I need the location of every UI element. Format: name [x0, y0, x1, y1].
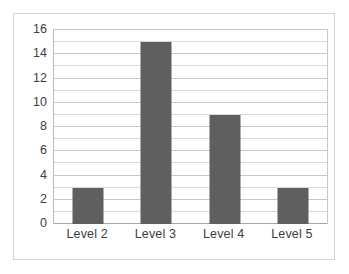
bar[interactable] — [277, 188, 308, 224]
plot-area — [53, 29, 328, 224]
bar-series — [54, 30, 327, 224]
y-axis-tick-label: 4 — [14, 168, 47, 181]
y-axis-tick-label: 10 — [14, 96, 47, 109]
bar-slot — [259, 30, 327, 224]
x-axis: Level 2Level 3Level 4Level 5 — [53, 228, 326, 254]
bar-slot — [191, 30, 259, 224]
y-axis-tick-label: 8 — [14, 120, 47, 133]
y-axis-tick-label: 2 — [14, 193, 47, 206]
chart-frame: 0246810121416 Level 2Level 3Level 4Level… — [13, 13, 335, 260]
y-axis-tick-label: 16 — [14, 23, 47, 36]
y-axis-tick-label: 0 — [14, 217, 47, 230]
bar[interactable] — [141, 42, 172, 224]
x-axis-tick-label: Level 4 — [203, 228, 244, 242]
y-axis-tick-label: 12 — [14, 71, 47, 84]
bar-slot — [54, 30, 122, 224]
x-axis-tick-label: Level 5 — [271, 228, 312, 242]
bar[interactable] — [73, 188, 104, 224]
chart-plot-wrapper: 0246810121416 Level 2Level 3Level 4Level… — [14, 14, 334, 259]
x-axis-tick-label: Level 2 — [66, 228, 107, 242]
bar[interactable] — [209, 115, 240, 224]
y-axis-tick-label: 6 — [14, 144, 47, 157]
x-axis-tick-label: Level 3 — [135, 228, 176, 242]
bar-slot — [122, 30, 190, 224]
y-axis-tick-label: 14 — [14, 47, 47, 60]
y-axis: 0246810121416 — [14, 14, 52, 210]
